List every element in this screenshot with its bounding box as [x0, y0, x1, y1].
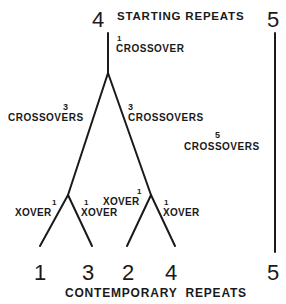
sub-right-b-label: XOVER — [163, 207, 200, 218]
right-main-branch — [108, 73, 151, 195]
leaf-5: 5 — [267, 260, 279, 285]
sub-right-a-count: 1 — [137, 187, 142, 196]
start-right-number: 5 — [267, 7, 279, 32]
sub-right-b-count: 1 — [164, 198, 169, 207]
left-main-label: CROSSOVERS — [8, 112, 84, 123]
sub-right-a-label: XOVER — [103, 196, 140, 207]
sub-left-a-count: 1 — [52, 198, 57, 207]
independent-label: CROSSOVERS — [184, 141, 260, 152]
sub-left-a-label: XOVER — [15, 207, 52, 218]
leaf-2: 2 — [122, 260, 134, 285]
start-left-number: 4 — [92, 7, 104, 32]
leaf-4-branch — [151, 195, 175, 246]
trunk-label: CROSSOVER — [116, 43, 185, 54]
left-main-count: 3 — [63, 102, 68, 112]
leaf-3: 3 — [82, 260, 94, 285]
starting-repeats-label: STARTING REPEATS — [117, 10, 244, 22]
left-main-branch — [68, 73, 108, 195]
contemporary-repeats-label: CONTEMPORARY REPEATS — [65, 286, 247, 300]
sub-left-b-label: XOVER — [81, 207, 118, 218]
sub-left-b-count: 1 — [84, 198, 89, 207]
leaf-4: 4 — [165, 260, 177, 285]
leaf-1: 1 — [34, 260, 46, 285]
independent-count: 5 — [215, 130, 220, 140]
crossover-tree-diagram: 4 STARTING REPEATS 5 1 CROSSOVER 3 CROSS… — [0, 0, 286, 304]
right-main-label: CROSSOVERS — [128, 112, 204, 123]
right-main-count: 3 — [128, 102, 133, 112]
trunk-count: 1 — [117, 34, 122, 43]
